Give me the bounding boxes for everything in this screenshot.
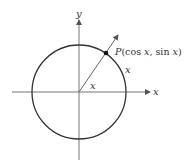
y-axis-label: y [75, 8, 82, 19]
arc-label: x [125, 64, 131, 75]
ray-to-point [79, 35, 118, 92]
point-label: P(cos x, sin x) [114, 46, 182, 57]
point-label-cos: (cos [121, 46, 144, 57]
point-label-close: ) [178, 46, 182, 57]
point-p [104, 51, 109, 56]
angle-label: x [90, 80, 96, 91]
unit-circle-diagram: y x P(cos x, sin x) x x [0, 0, 184, 166]
point-label-sin: , sin [149, 46, 172, 57]
x-axis-label: x [153, 86, 159, 97]
